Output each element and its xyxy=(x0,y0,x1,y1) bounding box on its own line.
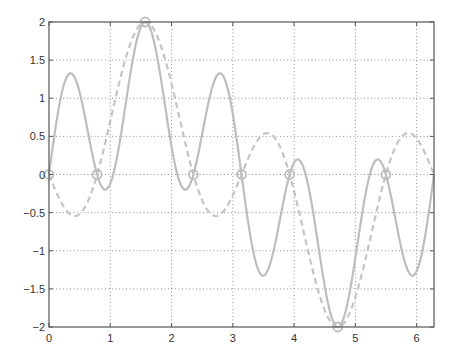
y-tick-label: 0.5 xyxy=(30,130,45,142)
y-tick-label: 2 xyxy=(39,16,45,28)
x-tick-label: 2 xyxy=(168,332,174,344)
dashed-curve xyxy=(49,22,434,327)
x-tick-label: 5 xyxy=(352,332,358,344)
x-tick-label: 6 xyxy=(414,332,420,344)
y-axis-tick-labels: 21.510.50−0.5−1−1.5−2 xyxy=(23,16,45,333)
x-tick-label: 0 xyxy=(46,332,52,344)
y-tick-label: −1.5 xyxy=(23,283,45,295)
plot-curves xyxy=(49,22,434,327)
x-tick-label: 3 xyxy=(230,332,236,344)
y-tick-label: 0 xyxy=(39,169,45,181)
x-axis-tick-labels: 0123456 xyxy=(46,332,420,344)
x-tick-label: 4 xyxy=(291,332,297,344)
y-tick-label: −0.5 xyxy=(23,207,45,219)
y-tick-label: −2 xyxy=(32,321,45,333)
y-tick-label: 1 xyxy=(39,92,45,104)
x-tick-label: 1 xyxy=(107,332,113,344)
line-chart: 0123456 21.510.50−0.5−1−1.5−2 xyxy=(0,0,456,358)
y-tick-label: 1.5 xyxy=(30,54,45,66)
y-tick-label: −1 xyxy=(32,245,45,257)
